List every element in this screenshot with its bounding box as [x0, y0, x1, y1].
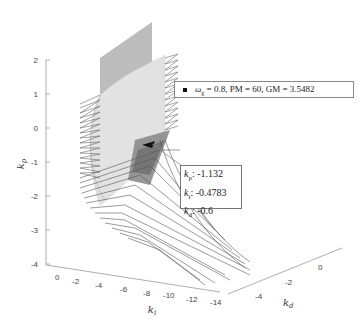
svg-text:-2: -2 — [72, 277, 80, 286]
svg-text:-3: -3 — [31, 226, 39, 235]
svg-text:1: 1 — [34, 90, 39, 99]
z-axis-label: kp — [15, 158, 28, 169]
x-axis-label: ki — [148, 304, 156, 317]
svg-text:-14: -14 — [210, 298, 222, 307]
svg-text:-2: -2 — [285, 278, 293, 287]
legend-marker-icon — [183, 88, 187, 92]
svg-text:-10: -10 — [163, 291, 175, 300]
y-axis-label: kd — [283, 297, 294, 310]
svg-text:0: 0 — [318, 263, 323, 272]
svg-text:-4: -4 — [255, 292, 263, 301]
svg-text:-2: -2 — [31, 192, 39, 201]
x-axis: 0 -2 -4 -6 -8 -10 -12 -14 ki — [46, 265, 222, 317]
svg-text:0: 0 — [55, 273, 60, 282]
svg-text:-1: -1 — [31, 158, 39, 167]
datatip-kd: kd: -0.6 — [184, 204, 238, 223]
svg-text:-12: -12 — [186, 295, 198, 304]
legend: ωg = 0.8, PM = 60, GM = 3.5482 — [174, 81, 354, 98]
svg-text:-6: -6 — [120, 285, 128, 294]
y-axis: -4 -2 0 kd — [228, 248, 342, 310]
svg-text:-8: -8 — [143, 289, 151, 298]
svg-text:2: 2 — [34, 56, 39, 65]
datatip-kp: kp: -1.132 — [184, 167, 238, 186]
legend-entry: ωg = 0.8, PM = 60, GM = 3.5482 — [195, 84, 315, 96]
z-axis: 2 1 0 -1 -2 -3 -4 kp — [15, 56, 50, 269]
svg-text:-4: -4 — [95, 281, 103, 290]
svg-text:-4: -4 — [31, 260, 39, 269]
svg-text:0: 0 — [34, 124, 39, 133]
datatip-ki: ki: -0.4783 — [184, 186, 238, 205]
datatip: kp: -1.132 ki: -0.4783 kd: -0.6 — [180, 165, 242, 209]
